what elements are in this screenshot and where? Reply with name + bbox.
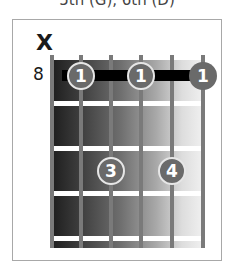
fret-line xyxy=(52,101,205,106)
chord-caption: 5th (G), 6th (D) xyxy=(0,0,234,9)
start-fret-label: 8 xyxy=(33,64,44,84)
finger-dot: 1 xyxy=(67,62,95,90)
finger-dot: 1 xyxy=(189,62,217,90)
muted-string-marker: X xyxy=(36,30,53,55)
string-1 xyxy=(50,55,54,248)
fret-line xyxy=(52,191,205,196)
finger-dot: 3 xyxy=(97,157,125,185)
fret-line xyxy=(52,146,205,151)
finger-dot: 4 xyxy=(158,157,186,185)
string-3 xyxy=(109,55,113,248)
finger-dot: 1 xyxy=(127,62,155,90)
fret-line xyxy=(52,236,205,241)
string-5 xyxy=(170,55,174,248)
